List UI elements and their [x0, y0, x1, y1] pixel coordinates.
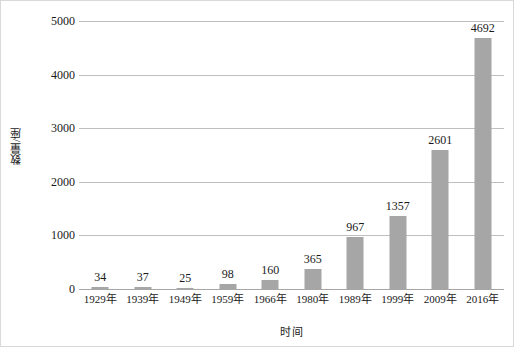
y-tick-label: 5000 [31, 15, 75, 27]
bar-value-label: 160 [261, 264, 279, 276]
bar-slot: 25 [164, 21, 207, 289]
y-axis-tick-labels: 010002000300040005000 [25, 1, 75, 347]
x-axis-tick-labels: 1929年1939年1949年1959年1966年1980年1989年1999年… [79, 293, 504, 311]
bar-value-label: 1357 [386, 200, 410, 212]
x-tick-label: 2016年 [466, 293, 499, 306]
y-tick-label: 1000 [31, 229, 75, 241]
x-axis-title: 时间 [79, 323, 504, 339]
bar-slot: 98 [207, 21, 250, 289]
x-tick-label: 2009年 [424, 293, 457, 306]
x-tick-label: 1939年 [126, 293, 159, 306]
bar-slot: 1357 [377, 21, 420, 289]
bar-value-label: 34 [94, 271, 106, 283]
bar-value-label: 967 [346, 221, 364, 233]
bar-slot: 365 [292, 21, 335, 289]
bar-slot: 37 [122, 21, 165, 289]
bar[interactable] [177, 288, 194, 290]
bar-value-label: 25 [179, 272, 191, 284]
bar-value-label: 37 [137, 271, 149, 283]
y-tick-label: 3000 [31, 122, 75, 134]
bar-slot: 2601 [419, 21, 462, 289]
bar-value-label: 2601 [428, 134, 452, 146]
bar[interactable] [389, 216, 406, 289]
plot-area: 34372598160365967135726014692 [79, 21, 504, 289]
y-tick-label: 4000 [31, 69, 75, 81]
bar[interactable] [92, 287, 109, 289]
y-tick-label: 0 [31, 283, 75, 295]
bar-slot: 160 [249, 21, 292, 289]
bar-value-label: 365 [304, 253, 322, 265]
bar[interactable] [134, 287, 151, 289]
x-tick-label: 1959年 [211, 293, 244, 306]
x-tick-label: 1949年 [169, 293, 202, 306]
bar-series: 34372598160365967135726014692 [79, 21, 504, 289]
bar[interactable] [304, 269, 321, 289]
y-axis-title-text: 数量/座 [8, 127, 24, 165]
bar-slot: 34 [79, 21, 122, 289]
x-tick-label: 1966年 [254, 293, 287, 306]
bar-value-label: 4692 [471, 22, 495, 34]
bar[interactable] [347, 237, 364, 289]
bar-value-label: 98 [222, 268, 234, 280]
bar-slot: 4692 [462, 21, 505, 289]
bar[interactable] [262, 280, 279, 289]
bar-slot: 967 [334, 21, 377, 289]
x-tick-label: 1989年 [339, 293, 372, 306]
bar[interactable] [432, 150, 449, 289]
bar[interactable] [219, 284, 236, 289]
x-tick-label: 1929年 [84, 293, 117, 306]
x-tick-label: 1980年 [296, 293, 329, 306]
chart-figure: 数量/座 010002000300040005000 3437259816036… [0, 0, 514, 347]
bar[interactable] [474, 38, 491, 289]
gridline-0 [79, 289, 504, 290]
x-tick-label: 1999年 [381, 293, 414, 306]
y-tick-label: 2000 [31, 176, 75, 188]
